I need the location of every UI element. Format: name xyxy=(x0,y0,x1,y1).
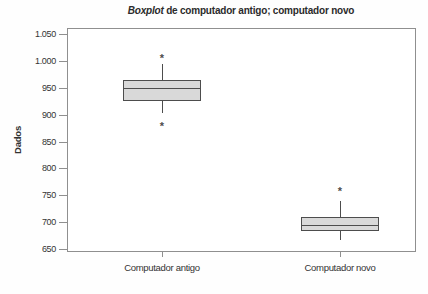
plot-layer: 1.0501.000950900850800750700650Computado… xyxy=(0,0,428,294)
y-tick-label: 700 xyxy=(20,217,56,227)
lower-whisker xyxy=(162,101,163,113)
y-tick-label: 650 xyxy=(20,244,56,254)
y-tick-mark xyxy=(59,115,67,116)
y-tick-label: 900 xyxy=(20,110,56,120)
y-tick-mark xyxy=(59,61,67,62)
outlier-marker: * xyxy=(160,121,164,132)
y-tick-label: 1.000 xyxy=(20,56,56,66)
y-tick-mark xyxy=(59,34,67,35)
y-tick-label: 850 xyxy=(20,137,56,147)
x-tick-mark xyxy=(162,251,163,257)
y-tick-label: 800 xyxy=(20,163,56,173)
boxplot-box xyxy=(123,80,201,100)
x-category-label: Computador antigo xyxy=(92,262,232,273)
y-tick-mark xyxy=(59,249,67,250)
lower-whisker xyxy=(340,231,341,240)
y-tick-mark xyxy=(59,222,67,223)
y-tick-label: 950 xyxy=(20,83,56,93)
y-tick-label: 750 xyxy=(20,190,56,200)
outlier-marker: * xyxy=(338,186,342,197)
x-category-label: Computador novo xyxy=(270,262,410,273)
outlier-marker: * xyxy=(160,52,164,63)
y-tick-mark xyxy=(59,142,67,143)
y-tick-label: 1.050 xyxy=(20,29,56,39)
y-tick-mark xyxy=(59,168,67,169)
y-tick-mark xyxy=(59,195,67,196)
upper-whisker xyxy=(340,201,341,217)
boxplot-chart: Boxplot de computador antigo; computador… xyxy=(0,0,428,294)
upper-whisker xyxy=(162,64,163,80)
x-tick-mark xyxy=(340,251,341,257)
median-line xyxy=(123,88,201,89)
median-line xyxy=(301,225,379,226)
y-tick-mark xyxy=(59,88,67,89)
